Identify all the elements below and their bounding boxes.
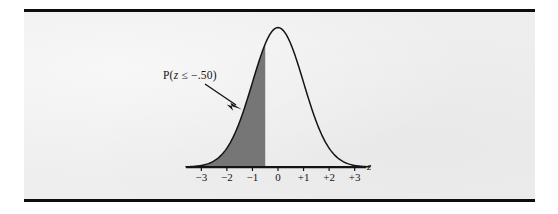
tick-label--3: −3 (195, 172, 207, 183)
shaded-tail-region (186, 44, 265, 167)
annotation-suffix: ) (213, 69, 217, 81)
tick-label-+1: +1 (298, 172, 310, 183)
tick-label--2: −2 (221, 172, 233, 183)
figure-page: P(z ≤ −.50) z −3 −2 −1 0 +1 +2 +3 (0, 0, 558, 214)
annotation-relation: ≤ −.50 (178, 69, 212, 81)
probability-annotation-label: P(z ≤ −.50) (163, 70, 217, 82)
normal-distribution-figure: P(z ≤ −.50) z −3 −2 −1 0 +1 +2 +3 (0, 0, 558, 214)
tick-label-0: 0 (275, 172, 281, 183)
normal-curve (186, 28, 370, 167)
tick-label-+2: +2 (323, 172, 335, 183)
x-axis-label: z (367, 161, 371, 172)
annotation-arrow (205, 84, 242, 111)
tick-label-+3: +3 (349, 172, 361, 183)
tick-label--1: −1 (247, 172, 259, 183)
annotation-prefix: P( (163, 69, 174, 81)
